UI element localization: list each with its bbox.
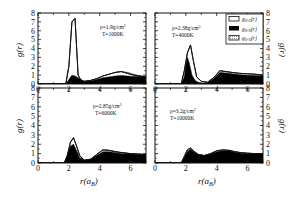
y-tick-label: 5 <box>31 112 35 121</box>
svg-text:T=4000K: T=4000K <box>172 32 193 38</box>
y-tick-label: 5 <box>266 35 270 44</box>
y-tick-label: 4 <box>31 121 35 130</box>
y-tick-label: 4 <box>266 121 270 130</box>
y-tick-label: 3 <box>266 131 270 140</box>
svg-text:ρ=2.38g/cm3: ρ=2.38g/cm3 <box>172 24 200 31</box>
y-tick-label: 2 <box>266 140 270 149</box>
x-tick-label: 2 <box>184 164 188 173</box>
y-tick-label: 0 <box>266 159 270 168</box>
y-tick-label: 7 <box>266 93 270 102</box>
rdf-figure: 0123456780246012345678024601234567802460… <box>0 0 294 198</box>
x-tick-label: 0 <box>153 164 157 173</box>
y-tick-label: 0 <box>31 159 35 168</box>
y-tick-label: 6 <box>31 27 35 36</box>
annotation-top-right: ρ=2.38g/cm3 T=4000K <box>172 24 200 38</box>
y-tick-label: 8 <box>266 9 270 18</box>
svg-text:T=6000K: T=6000K <box>95 110 116 116</box>
legend-swatch-filled <box>229 26 239 31</box>
annotation-bottom-right: ρ=3.2g/cm3 T=10000K <box>170 107 196 121</box>
x-tick-label: 0 <box>36 164 40 173</box>
y-axis-label-bottom-right: g(r) <box>278 119 288 133</box>
annotation-bottom-left: ρ=2.85g/cm3 T=6000K <box>93 102 121 116</box>
x-tick-label: 6 <box>129 164 133 173</box>
svg-text:T=10000K: T=10000K <box>170 115 194 121</box>
panel-bottom-right: 0123456780246 <box>153 84 270 173</box>
svg-text:T=1000K: T=1000K <box>102 31 123 37</box>
y-tick-label: 8 <box>31 9 35 18</box>
y-axis-label-top-right: g(r) <box>278 43 288 57</box>
y-tick-label: 1 <box>266 71 270 80</box>
y-tick-label: 5 <box>266 112 270 121</box>
svg-text:ρ=1.9g/cm3: ρ=1.9g/cm3 <box>100 23 126 30</box>
y-tick-label: 7 <box>266 18 270 27</box>
svg-text:ρ=3.2g/cm3: ρ=3.2g/cm3 <box>170 107 196 114</box>
y-tick-label: 6 <box>266 27 270 36</box>
y-tick-label: 1 <box>31 71 35 80</box>
annotation-top-left: ρ=1.9g/cm3 T=1000K <box>100 23 126 37</box>
y-tick-label: 4 <box>31 44 35 53</box>
x-axis-label-right: r(aB) <box>198 176 216 187</box>
y-tick-label: 3 <box>266 53 270 62</box>
series-ho-outline <box>38 18 146 84</box>
y-tick-label: 7 <box>31 93 35 102</box>
y-axis-label-top-left: g(r) <box>14 43 24 57</box>
legend-swatch-open <box>229 17 239 22</box>
series-ghhr <box>155 57 263 84</box>
plot-frame <box>155 88 263 163</box>
legend-swatch-dotted <box>229 36 239 41</box>
y-tick-label: 8 <box>266 84 270 93</box>
x-axis-label-left: r(aB) <box>80 176 98 187</box>
y-tick-label: 3 <box>31 53 35 62</box>
y-tick-label: 2 <box>266 62 270 71</box>
x-tick-label: 2 <box>67 164 71 173</box>
svg-text:ρ=2.85g/cm3: ρ=2.85g/cm3 <box>93 102 121 109</box>
x-tick-label: 6 <box>246 164 250 173</box>
plot-frame <box>38 88 146 163</box>
y-tick-label: 1 <box>31 149 35 158</box>
legend: gH-O(r) gH-H(r) gO-O(r) <box>226 14 263 44</box>
y-tick-label: 7 <box>31 18 35 27</box>
y-axis-label-bottom-left: g(r) <box>14 119 24 133</box>
x-tick-label: 4 <box>98 164 102 173</box>
y-tick-label: 6 <box>31 103 35 112</box>
x-tick-label: 4 <box>215 164 219 173</box>
series-ghhr <box>155 149 263 163</box>
y-tick-label: 8 <box>31 84 35 93</box>
y-tick-label: 2 <box>31 62 35 71</box>
y-tick-label: 5 <box>31 35 35 44</box>
y-tick-label: 3 <box>31 131 35 140</box>
y-tick-label: 4 <box>266 44 270 53</box>
y-tick-label: 2 <box>31 140 35 149</box>
y-tick-label: 1 <box>266 149 270 158</box>
panel-bottom-left: 0123456780246 <box>31 84 146 173</box>
panel-top-left: 0123456780246 <box>31 9 146 94</box>
y-tick-label: 6 <box>266 103 270 112</box>
